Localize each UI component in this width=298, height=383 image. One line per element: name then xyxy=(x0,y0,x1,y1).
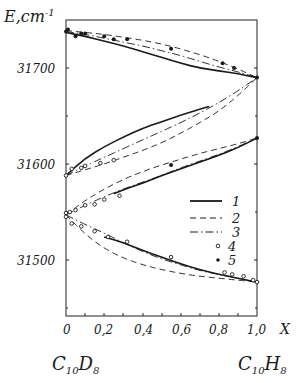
middle-lower-point-open xyxy=(64,211,68,215)
upper-point-filled xyxy=(221,61,225,65)
y-tick-31600: 31600 xyxy=(17,158,56,172)
middle-upper-curve-3 xyxy=(66,78,257,176)
lower-point-open xyxy=(230,273,234,277)
lower-point-open xyxy=(255,280,259,284)
x-axis-title: X xyxy=(279,321,291,337)
x-tick-0.6: 0,6 xyxy=(172,323,191,337)
x-tick-0: 0 xyxy=(63,323,71,337)
lower-point-open xyxy=(125,240,129,244)
y-axis-title: E,cm-1 xyxy=(3,7,55,26)
legend-swatch-open-circle xyxy=(216,244,220,248)
upper-point-filled xyxy=(255,76,259,80)
middle-lower-point-open xyxy=(68,210,72,214)
middle-upper-point-open xyxy=(79,166,83,170)
upper-point-filled xyxy=(79,31,83,35)
plot-frame xyxy=(66,20,257,316)
upper-point-filled xyxy=(83,31,87,35)
lower-point-open xyxy=(251,278,255,282)
middle-lower-point-open xyxy=(102,198,106,202)
y-axis-ticks xyxy=(66,68,257,308)
legend-label-1: 1 xyxy=(232,194,240,209)
middle-upper-point-open xyxy=(112,158,116,162)
middle-upper-point-open xyxy=(83,164,87,168)
lower-point-open xyxy=(93,229,97,233)
middle-lower-point-open xyxy=(74,208,78,212)
chart: E,cm-1 31700 31600 31500 0 0,2 0,4 0,6 0… xyxy=(0,0,298,383)
right-compound-label: C10H8 xyxy=(238,353,287,376)
upper-point-filled xyxy=(232,66,236,70)
legend-swatch-filled-circle xyxy=(216,258,220,262)
middle-upper-curve-2 xyxy=(66,78,257,176)
upper-curve-2 xyxy=(66,31,257,78)
middle-upper-point-open xyxy=(99,161,103,165)
lower-point-open xyxy=(64,215,68,219)
x-tick-0.4: 0,4 xyxy=(134,323,153,337)
upper-point-filled xyxy=(112,37,116,41)
lower-point-open xyxy=(106,235,110,239)
middle-upper-point-open xyxy=(70,167,74,171)
left-compound-label: C10D8 xyxy=(52,353,99,376)
upper-point-filled xyxy=(74,34,78,38)
x-tick-0.2: 0,2 xyxy=(94,323,113,337)
y-tick-31700: 31700 xyxy=(17,62,56,76)
legend-label-2: 2 xyxy=(231,211,240,226)
legend-label-4: 4 xyxy=(227,239,236,254)
middle-lower-point-filled xyxy=(169,163,173,167)
middle-lower-point-filled xyxy=(255,136,259,140)
legend: 1 2 3 4 5 xyxy=(190,194,240,268)
upper-point-filled xyxy=(102,34,106,38)
y-tick-31500: 31500 xyxy=(17,254,56,268)
lower-point-open xyxy=(169,255,173,259)
upper-curve-1 xyxy=(66,33,257,78)
lower-point-open xyxy=(70,222,74,226)
middle-lower-point-open xyxy=(83,203,87,207)
x-tick-0.8: 0,8 xyxy=(209,323,228,337)
upper-point-filled xyxy=(66,28,70,32)
legend-label-5: 5 xyxy=(228,253,236,268)
middle-lower-point-open xyxy=(118,194,122,198)
upper-point-filled xyxy=(169,47,173,51)
upper-point-filled xyxy=(125,37,129,41)
legend-label-3: 3 xyxy=(232,225,240,240)
lower-point-open xyxy=(79,225,83,229)
lower-point-open xyxy=(223,271,227,275)
lower-point-open xyxy=(242,275,246,279)
middle-upper-point-open xyxy=(64,174,68,178)
x-tick-1.0: 1,0 xyxy=(247,323,266,337)
middle-lower-point-open xyxy=(93,203,97,207)
